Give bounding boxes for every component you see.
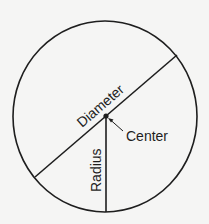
center-point [103,113,108,118]
center-label: Center [126,128,168,144]
circle-diagram-svg: Diameter Center Radius [0,0,209,224]
circle-diagram: Diameter Center Radius [0,0,209,224]
radius-label: Radius [88,148,104,192]
center-arrow-icon [108,118,123,131]
